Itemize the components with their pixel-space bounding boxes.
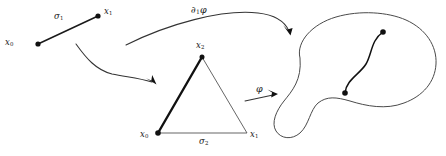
manifold-group [274, 13, 436, 138]
diagram-canvas [0, 0, 446, 156]
boundary-map-arrow-group [126, 12, 293, 45]
singular-simplex-map-arrow-path [245, 95, 273, 101]
two-simplex-vertex-x0-dot [155, 130, 161, 136]
two-simplex-vertex-x0-label: x0 [140, 130, 148, 139]
one-simplex-vertex-x0-label: x0 [5, 38, 13, 47]
one-simplex-vertex-x1-dot [95, 13, 100, 18]
manifold-image-curve [345, 32, 383, 93]
face-inclusion-arrow-group [76, 44, 157, 85]
two-simplex-vertex-x1-label: x1 [250, 130, 258, 139]
one-simplex-edge-label: σ1 [54, 12, 63, 21]
singular-simplex-map-label: φ [256, 84, 263, 94]
boundary-map-label: ∂1φ [191, 5, 207, 15]
one-simplex-vertex-x1-label: x1 [104, 7, 112, 16]
two-simplex-edge-right [202, 57, 247, 133]
one-simplex-edge [38, 16, 98, 44]
two-simplex-group [155, 55, 247, 136]
face-inclusion-arrow-path [76, 44, 152, 82]
two-simplex-vertex-x2-dot [200, 55, 205, 60]
two-simplex-edge-left [158, 57, 202, 133]
manifold-image-end-dot [380, 29, 386, 35]
face-inclusion-arrow-head [146, 75, 157, 85]
two-simplex-vertex-x2-label: x2 [196, 41, 204, 50]
manifold-image-start-dot [342, 90, 348, 96]
boundary-map-arrow-head [283, 25, 292, 35]
one-simplex-vertex-x0-dot [35, 41, 40, 46]
boundary-map-arrow-path [126, 12, 289, 45]
one-simplex-group [35, 13, 100, 46]
two-simplex-base-label: σ2 [199, 137, 208, 146]
simplex-manifold-diagram: σ1 x0 x1 ∂1φ x2 x0 x1 σ2 φ [0, 0, 446, 156]
